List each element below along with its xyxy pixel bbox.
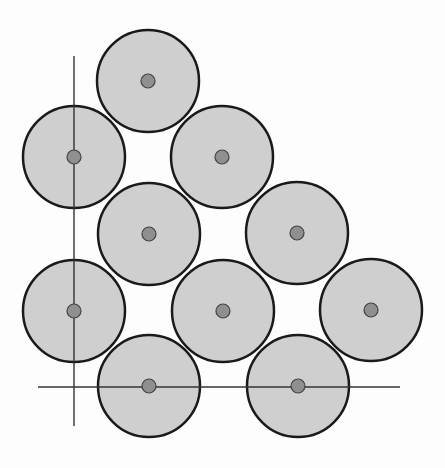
- particle-packing-diagram: [0, 0, 445, 468]
- particle-center-dot: [291, 379, 305, 393]
- particle-center-dot: [142, 379, 156, 393]
- particle-center-dot: [141, 74, 155, 88]
- particle-center-dot: [290, 226, 304, 240]
- particle-center-dot: [216, 304, 230, 318]
- particle-center-dot: [67, 304, 81, 318]
- particle-center-dot: [364, 303, 378, 317]
- particle-center-dot: [67, 150, 81, 164]
- particle-center-dot: [215, 150, 229, 164]
- particle-center-dot: [142, 227, 156, 241]
- particle-group: [23, 30, 422, 437]
